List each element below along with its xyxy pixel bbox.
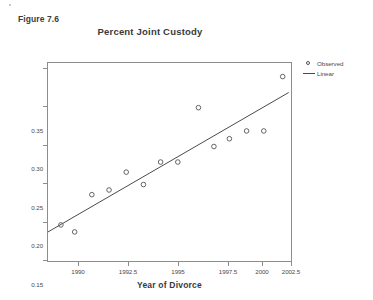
figure-label: Figure 7.6 [18, 14, 59, 24]
data-point [261, 129, 266, 134]
x-axis-title: Year of Divorce [47, 280, 292, 290]
x-tick-label: 1995 [171, 268, 184, 275]
data-point [72, 230, 77, 235]
data-point [196, 105, 201, 110]
x-tick-label: 1997.5 [219, 268, 237, 275]
scan-artifact-speck [9, 4, 11, 6]
linear-regression-line [48, 93, 289, 232]
data-point [90, 192, 95, 197]
y-tick-label: 0.15 [31, 281, 43, 288]
y-tick-label: 0.35 [31, 127, 43, 134]
plot-canvas [48, 63, 293, 263]
legend-item-observed: Observed [303, 59, 369, 68]
plot-area [47, 62, 292, 262]
data-point [124, 170, 129, 175]
data-point [280, 74, 285, 79]
observed-data-points [59, 74, 285, 234]
x-tick-label: 2000 [255, 268, 268, 275]
data-point [141, 182, 146, 187]
data-point [227, 136, 232, 141]
open-circle-marker-icon [303, 59, 317, 68]
data-point [244, 129, 249, 134]
y-tick-label: 0.30 [31, 165, 43, 172]
line-marker-icon [303, 69, 317, 78]
chart-title: Percent Joint Custody [0, 26, 300, 37]
y-tick-label: 0.20 [31, 242, 43, 249]
data-point [212, 144, 217, 149]
x-axis-tick-labels: 1990 1992.5 1995 1997.5 2000 2002.5 [47, 264, 292, 278]
x-tick-label: 2002.5 [282, 268, 300, 275]
data-point [107, 188, 112, 193]
data-point [158, 160, 163, 165]
regression-line [48, 93, 289, 232]
legend-item-linear: Linear [303, 69, 369, 78]
x-tick-label: 1990 [71, 268, 84, 275]
y-tick-label: 0.25 [31, 204, 43, 211]
legend-label: Observed [317, 60, 343, 67]
x-tick-label: 1992.5 [119, 268, 137, 275]
legend-label: Linear [317, 70, 334, 77]
chart-legend: Observed Linear [303, 59, 369, 79]
y-axis-tick-labels: 0.35 0.30 0.25 0.20 0.15 0.10 [18, 62, 43, 262]
data-point [176, 160, 181, 165]
